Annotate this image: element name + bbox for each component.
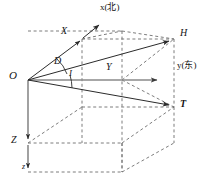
box-diagonal-to-h: [122, 39, 174, 80]
label-angle-inclination: I: [69, 69, 72, 78]
label-vector-h: H: [180, 28, 187, 38]
box-edge-bottom-right-diag: [122, 143, 174, 172]
box-edge-top-back-right: [122, 31, 174, 39]
t-vector: [28, 80, 169, 105]
box-edge-base-right-diag: [122, 107, 174, 143]
label-origin: O: [9, 70, 17, 81]
h-vector: [28, 41, 169, 80]
label-component-x: X: [61, 26, 67, 36]
label-y-axis: y(东): [177, 61, 197, 70]
box-edge-base-left-diag: [28, 107, 82, 143]
figure-canvas: O x(北) y(东) z X Y Z H T D I: [0, 0, 211, 180]
box-edge-top-back-left-seg: [82, 31, 122, 39]
label-angle-declination: D: [54, 56, 61, 66]
label-component-y: Y: [106, 62, 112, 72]
x-axis-ray: [83, 25, 99, 38]
label-component-z: Z: [11, 135, 17, 145]
label-vector-t: T: [180, 99, 186, 109]
box-diagonal-to-t: [122, 80, 174, 107]
label-x-axis: x(北): [100, 3, 120, 12]
label-z-axis: z: [22, 163, 25, 171]
